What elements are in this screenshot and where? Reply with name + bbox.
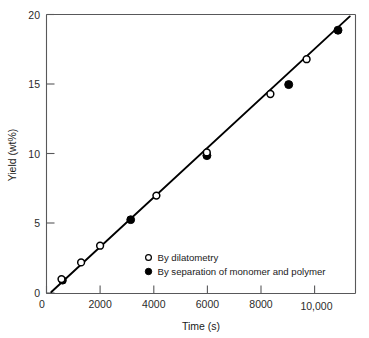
y-axis-tick-labels: 20 15 10 5 0	[28, 9, 40, 300]
chart-figure: 20 15 10 5 0 0 2000 4000 6000 8000 10,00…	[0, 0, 369, 338]
legend-open-circle-icon	[146, 255, 152, 261]
y-axis-ticks	[47, 15, 55, 294]
data-point-open	[153, 192, 160, 199]
data-point-filled	[285, 81, 293, 89]
chart-svg: 20 15 10 5 0 0 2000 4000 6000 8000 10,00…	[0, 0, 369, 338]
x-axis-title: Time (s)	[182, 320, 220, 332]
legend-filled-circle-icon	[145, 268, 151, 274]
x-tick-label-6000: 6000	[196, 298, 220, 310]
y-tick-label-20: 20	[28, 9, 40, 21]
y-tick-label-15: 15	[28, 78, 40, 90]
chart-legend: By dilatometry By separation of monomer …	[145, 252, 326, 277]
x-tick-label-10000: 10,000	[300, 300, 332, 312]
x-axis-ticks	[47, 286, 315, 294]
data-point-open	[97, 242, 104, 249]
legend-label-separation: By separation of monomer and polymer	[158, 266, 327, 277]
x-tick-label-0: 0	[39, 298, 45, 310]
x-axis-tick-labels: 0 2000 4000 6000 8000 10,000	[39, 298, 333, 312]
x-tick-label-2000: 2000	[88, 298, 112, 310]
legend-label-dilatometry: By dilatometry	[158, 252, 219, 263]
x-tick-label-8000: 8000	[249, 298, 273, 310]
data-point-open	[78, 259, 85, 266]
data-point-filled	[127, 216, 135, 224]
data-point-open	[303, 56, 310, 63]
data-point-filled	[334, 26, 342, 34]
data-point-open	[58, 276, 65, 283]
x-tick-label-4000: 4000	[142, 298, 166, 310]
y-tick-label-5: 5	[34, 217, 40, 229]
data-point-open	[203, 149, 210, 156]
y-axis-title: Yield (wt%)	[6, 129, 18, 182]
y-tick-label-10: 10	[28, 148, 40, 160]
data-point-open	[267, 91, 274, 98]
